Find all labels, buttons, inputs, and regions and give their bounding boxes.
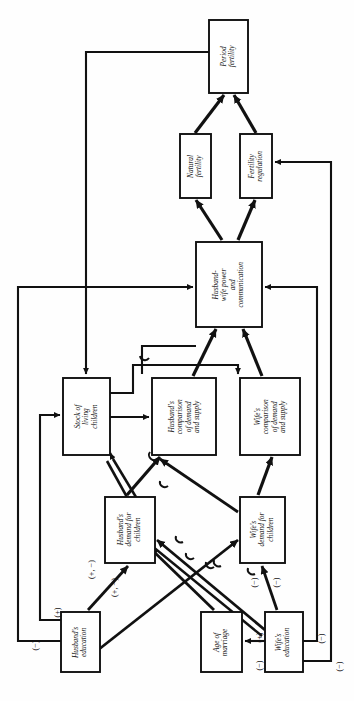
node-label: Husband's demand for children xyxy=(117,513,142,547)
sign-text: (+) xyxy=(52,607,61,617)
node-age-of-marriage[interactable]: Age of marriage xyxy=(201,612,242,672)
node-label: Stock of living children xyxy=(74,404,99,428)
sign-text: (+, −) xyxy=(86,560,95,579)
node-natural-fertility[interactable]: Natural fertility xyxy=(180,134,211,198)
edge-sign-label: (+, −) xyxy=(101,574,127,600)
sign-text: (+) xyxy=(254,632,263,642)
sign-text: (−) xyxy=(334,661,343,671)
sign-text: (−) xyxy=(249,577,258,587)
sign-text: (−) xyxy=(254,660,263,670)
node-label: Husband- wife power and communication xyxy=(212,262,246,308)
node-fertility-regulation[interactable]: Fertility regulation xyxy=(240,134,272,198)
diagram-canvas: Period fertility Natural fertility Ferti… xyxy=(0,0,354,701)
edge-sign-label: (−) xyxy=(243,571,265,593)
node-label: Fertility regulation xyxy=(248,151,265,182)
node-label: Husband's education xyxy=(72,626,89,657)
sign-text: (−) xyxy=(30,640,39,650)
edge-sign-label: (+) xyxy=(46,601,68,623)
sign-text: (−) xyxy=(316,633,325,643)
edge-sign-label: (−) xyxy=(24,634,46,656)
node-wifes-comparison[interactable]: Wife's comparison of demand and supply xyxy=(240,378,300,455)
edge-sign-label: (−) xyxy=(248,654,270,676)
edge-sign-label: (+) xyxy=(248,626,270,648)
node-label: Natural fertility xyxy=(187,155,204,178)
edge-sign-label: (−) xyxy=(265,571,287,593)
node-label: Husband's comparison of demand and suppl… xyxy=(167,399,201,434)
edge-sign-label: (−) xyxy=(310,627,332,649)
node-label: Period fertility xyxy=(220,46,237,68)
node-wifes-demand[interactable]: Wife's demand for children xyxy=(240,497,285,563)
node-period-fertility[interactable]: Period fertility xyxy=(209,20,248,93)
node-husband-wife-power[interactable]: Husband- wife power and communication xyxy=(196,242,262,327)
node-label: Wife's education xyxy=(276,627,293,656)
sign-text: (−) xyxy=(271,577,280,587)
node-stock-of-living-children[interactable]: Stock of living children xyxy=(63,378,110,455)
diagram-edges xyxy=(0,0,354,701)
node-label: Wife's demand for children xyxy=(250,513,275,547)
edge-sign-label: (−) xyxy=(328,655,350,677)
node-label: Wife's comparison of demand and supply xyxy=(253,399,287,434)
node-husbands-demand[interactable]: Husband's demand for children xyxy=(105,497,155,563)
sign-text: (+, −) xyxy=(109,578,118,597)
node-label: Age of marriage xyxy=(213,628,230,656)
node-husbands-comparison[interactable]: Husband's comparison of demand and suppl… xyxy=(152,378,216,455)
node-wifes-education[interactable]: Wife's education xyxy=(265,612,303,672)
